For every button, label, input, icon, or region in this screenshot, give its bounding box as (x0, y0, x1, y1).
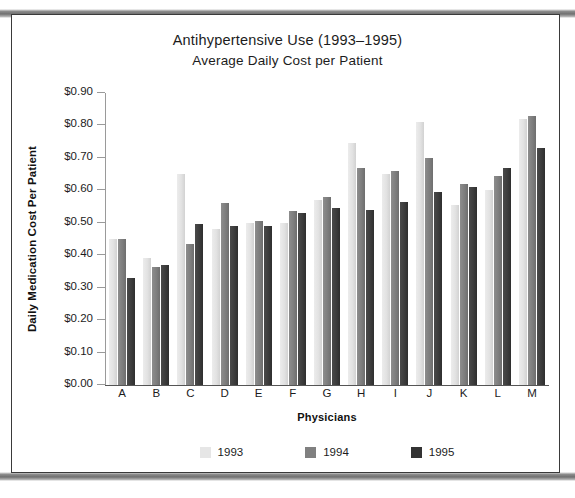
y-tick-mark (97, 189, 105, 190)
bar-group (105, 93, 139, 385)
y-tick-mark (97, 222, 105, 223)
y-tick-mark (97, 319, 105, 320)
bar-d-1993 (212, 229, 220, 385)
x-tick-label: J (412, 387, 446, 399)
bar-h-1994 (357, 168, 365, 385)
bar-f-1994 (289, 211, 297, 385)
plot-area: $0.90$0.80$0.70$0.60$0.50$0.40$0.30$0.20… (105, 93, 549, 385)
bar-c-1994 (186, 244, 194, 385)
bar-k-1995 (469, 187, 477, 385)
title-block: Antihypertensive Use (1993–1995) Average… (0, 32, 575, 68)
y-tick-label: $0.90 (64, 85, 93, 97)
y-tick-mark (97, 352, 105, 353)
bar-d-1994 (221, 203, 229, 385)
bar-group (242, 93, 276, 385)
y-tick-label: $0.30 (64, 280, 93, 292)
x-tick-label: G (310, 387, 344, 399)
y-tick-mark (97, 287, 105, 288)
chart-legend: 199319941995 (105, 446, 549, 458)
legend-item-1993: 1993 (200, 446, 244, 458)
bar-b-1995 (161, 265, 169, 385)
bar-i-1994 (391, 171, 399, 385)
y-tick-label: $0.70 (64, 150, 93, 162)
chart-figure: Antihypertensive Use (1993–1995) Average… (0, 0, 575, 498)
bar-e-1995 (264, 226, 272, 385)
legend-swatch-1995 (411, 447, 422, 458)
y-tick-mark (97, 157, 105, 158)
x-tick-label: L (481, 387, 515, 399)
chart-subtitle: Average Daily Cost per Patient (0, 53, 575, 68)
bar-group (276, 93, 310, 385)
bar-b-1994 (152, 267, 160, 385)
bar-c-1995 (195, 224, 203, 385)
legend-swatch-1994 (305, 447, 316, 458)
bar-group (378, 93, 412, 385)
legend-label-1993: 1993 (218, 446, 244, 458)
bar-k-1994 (460, 184, 468, 385)
bar-groups (105, 93, 549, 385)
bar-l-1993 (485, 190, 493, 385)
y-tick-label: $0.60 (64, 182, 93, 194)
x-tick-label: M (515, 387, 549, 399)
x-tick-label: I (378, 387, 412, 399)
bar-group (139, 93, 173, 385)
bar-h-1993 (348, 143, 356, 385)
y-axis-label: Daily Medication Cost Per Patient (24, 93, 40, 385)
bar-e-1993 (246, 223, 254, 385)
y-tick-mark (97, 384, 105, 385)
bar-m-1994 (528, 116, 536, 385)
bar-h-1995 (366, 210, 374, 385)
y-tick-mark (97, 92, 105, 93)
x-tick-label: K (447, 387, 481, 399)
bar-f-1995 (298, 213, 306, 385)
bar-g-1993 (314, 200, 322, 385)
bar-e-1994 (255, 221, 263, 385)
bar-group (310, 93, 344, 385)
bar-g-1994 (323, 197, 331, 385)
x-axis-label: Physicians (105, 411, 549, 423)
bar-a-1995 (127, 278, 135, 385)
bar-c-1993 (177, 174, 185, 385)
bar-f-1993 (280, 223, 288, 385)
bar-i-1993 (382, 174, 390, 385)
y-tick-label: $0.40 (64, 247, 93, 259)
legend-item-1994: 1994 (305, 446, 349, 458)
x-tick-label: F (276, 387, 310, 399)
bar-m-1995 (537, 148, 545, 385)
legend-swatch-1993 (200, 447, 211, 458)
x-axis-ticks: ABCDEFGHIJKLM (105, 387, 549, 399)
chart-title: Antihypertensive Use (1993–1995) (0, 32, 575, 48)
bar-l-1994 (494, 176, 502, 385)
bar-l-1995 (503, 168, 511, 385)
x-tick-label: D (207, 387, 241, 399)
bar-group (412, 93, 446, 385)
x-tick-label: B (139, 387, 173, 399)
x-tick-label: C (173, 387, 207, 399)
bottom-edge-band (0, 472, 575, 481)
legend-label-1995: 1995 (429, 446, 455, 458)
bar-i-1995 (400, 202, 408, 385)
bar-j-1994 (425, 158, 433, 385)
x-tick-label: E (242, 387, 276, 399)
bar-j-1993 (416, 122, 424, 385)
bar-group (173, 93, 207, 385)
bar-d-1995 (230, 226, 238, 385)
x-tick-label: A (105, 387, 139, 399)
y-tick-label: $0.10 (64, 345, 93, 357)
x-axis-line (105, 385, 549, 386)
bar-a-1994 (118, 239, 126, 385)
bar-a-1993 (109, 239, 117, 385)
y-axis-label-text: Daily Medication Cost Per Patient (26, 146, 38, 332)
bar-group (481, 93, 515, 385)
bar-m-1993 (519, 119, 527, 385)
bar-group (447, 93, 481, 385)
y-tick-label: $0.80 (64, 117, 93, 129)
bar-b-1993 (143, 258, 151, 385)
y-tick-mark (97, 254, 105, 255)
bar-k-1993 (451, 205, 459, 385)
legend-item-1995: 1995 (411, 446, 455, 458)
bar-g-1995 (332, 208, 340, 385)
y-tick-mark (97, 124, 105, 125)
y-tick-label: $0.50 (64, 215, 93, 227)
y-tick-label: $0.00 (64, 377, 93, 389)
